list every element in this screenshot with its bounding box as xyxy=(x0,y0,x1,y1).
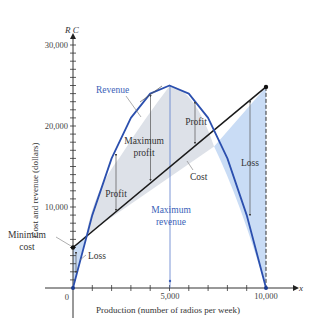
min-cost-label: Minimum xyxy=(8,230,47,240)
profit-left-label: Profit xyxy=(105,189,127,199)
min-cost-point xyxy=(71,245,75,249)
x-tick-10000: 10,000 xyxy=(254,291,277,301)
y-tick-30000: 30,000 xyxy=(45,40,68,50)
max-profit-label: Maximum xyxy=(124,136,164,146)
max-revenue-label-2: revenue xyxy=(156,217,186,227)
loss-right-label: Loss xyxy=(241,158,259,168)
loss-left-label: Loss xyxy=(88,251,106,261)
y-tick-10000: 10,000 xyxy=(45,202,68,212)
cost-revenue-chart: R C x 30,000 20,000 10,000 0 5,000 10,00… xyxy=(0,0,316,330)
profit-right-label: Profit xyxy=(185,117,207,127)
x-axis-symbol: x xyxy=(298,283,303,293)
x-tick-0: 0 xyxy=(65,292,69,302)
revenue-label: Revenue xyxy=(96,85,129,95)
max-profit-label-2: profit xyxy=(133,148,154,158)
cost-end-point xyxy=(264,85,268,89)
max-revenue-label: Maximum xyxy=(151,205,191,215)
y-tick-20000: 20,000 xyxy=(45,121,68,131)
max-profit-tangent xyxy=(140,86,162,102)
cost-label: Cost xyxy=(190,172,208,182)
x-axis-label: Production (number of radios per week) xyxy=(96,305,240,315)
min-cost-label-2: cost xyxy=(19,242,35,252)
min-cost-leader xyxy=(56,237,71,246)
y-axis-label: Cost and revenue (dollars) xyxy=(30,142,40,237)
x-tick-5000: 5,000 xyxy=(160,291,179,301)
y-axis-symbol: R C xyxy=(64,25,80,35)
